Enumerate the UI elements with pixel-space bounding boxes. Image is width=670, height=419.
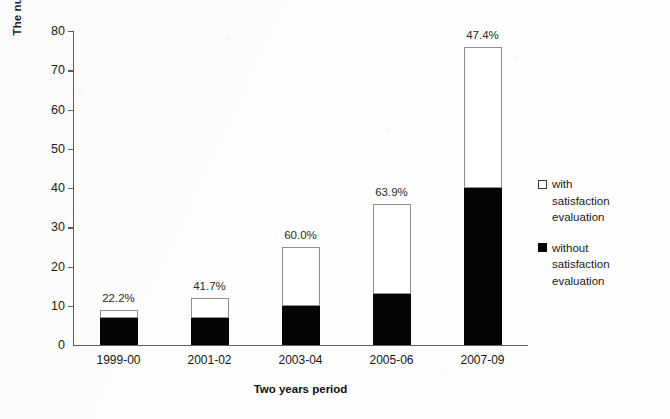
x-tick-label: 2001-02	[187, 353, 231, 367]
x-tick-label: 2003-04	[278, 353, 322, 367]
y-axis-line	[73, 31, 74, 345]
x-tick-label: 2007-09	[460, 353, 504, 367]
y-tick-label: 80	[51, 24, 65, 38]
x-tick-label: 2005-06	[369, 353, 413, 367]
bar-segment-without-satisfaction-evaluation[interactable]	[100, 318, 138, 345]
x-tick-label: 1999-00	[96, 353, 140, 367]
y-tick-mark	[68, 149, 73, 150]
y-tick-mark	[68, 227, 73, 228]
bar-segment-with-satisfaction-evaluation[interactable]	[191, 298, 229, 318]
bar-segment-with-satisfaction-evaluation[interactable]	[373, 204, 411, 294]
legend-swatch-hollow-square-icon	[538, 180, 547, 189]
bar-percentage-label: 47.4%	[466, 29, 499, 41]
legend-label: with satisfaction evaluation	[538, 176, 666, 226]
bar-group[interactable]: 60.0%2003-04	[282, 31, 320, 345]
telemedicine-applications-stacked-bar-chart: The number of telemedicine applications …	[0, 0, 670, 419]
legend-label: without satisfaction evaluation	[538, 240, 666, 290]
y-tick-mark	[68, 31, 73, 32]
bar-percentage-label: 63.9%	[375, 186, 408, 198]
y-tick-mark	[68, 70, 73, 71]
y-tick-label: 0	[58, 338, 65, 352]
y-tick-mark	[68, 267, 73, 268]
bar-percentage-label: 41.7%	[193, 280, 226, 292]
bar-segment-without-satisfaction-evaluation[interactable]	[191, 318, 229, 345]
plot-area: 01020304050607080 22.2%1999-0041.7%2001-…	[73, 31, 528, 345]
bar-group[interactable]: 41.7%2001-02	[191, 31, 229, 345]
y-tick-mark	[68, 110, 73, 111]
y-axis-title: The number of telemedicine applications	[6, 0, 28, 62]
bar-segment-without-satisfaction-evaluation[interactable]	[464, 188, 502, 345]
bar-percentage-label: 60.0%	[284, 229, 317, 241]
bar-percentage-label: 22.2%	[102, 292, 135, 304]
y-tick-label: 40	[51, 181, 65, 195]
y-tick-label: 10	[51, 299, 65, 313]
legend-swatch-filled-square-icon	[538, 243, 547, 252]
legend-entry[interactable]: without satisfaction evaluation	[538, 240, 666, 290]
y-tick-label: 60	[51, 103, 65, 117]
bar-segment-without-satisfaction-evaluation[interactable]	[373, 294, 411, 345]
x-axis-line	[73, 345, 528, 346]
bar-segment-with-satisfaction-evaluation[interactable]	[100, 310, 138, 318]
bar-segment-without-satisfaction-evaluation[interactable]	[282, 306, 320, 345]
x-axis-title: Two years period	[73, 383, 528, 395]
y-tick-label: 70	[51, 63, 65, 77]
y-tick-label: 50	[51, 142, 65, 156]
y-tick-label: 20	[51, 260, 65, 274]
y-tick-mark	[68, 306, 73, 307]
chart-legend: with satisfaction evaluationwithout sati…	[538, 176, 666, 303]
y-tick-label: 30	[51, 220, 65, 234]
y-tick-mark	[68, 188, 73, 189]
bar-group[interactable]: 22.2%1999-00	[100, 31, 138, 345]
legend-entry[interactable]: with satisfaction evaluation	[538, 176, 666, 226]
bar-group[interactable]: 47.4%2007-09	[464, 31, 502, 345]
bar-group[interactable]: 63.9%2005-06	[373, 31, 411, 345]
bar-segment-with-satisfaction-evaluation[interactable]	[282, 247, 320, 306]
bar-segment-with-satisfaction-evaluation[interactable]	[464, 47, 502, 188]
